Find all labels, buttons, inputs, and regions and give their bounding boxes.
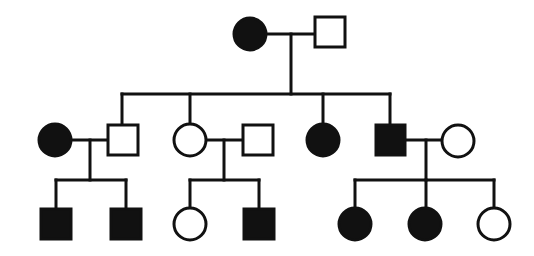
sibship-generation-3 bbox=[56, 180, 494, 209]
female-affected-II-3 bbox=[307, 124, 339, 156]
female-unaffected-III-3 bbox=[174, 208, 206, 240]
female-affected-III-6 bbox=[409, 208, 441, 240]
generation-2 bbox=[39, 124, 474, 180]
female-affected-spouse-1 bbox=[39, 124, 71, 156]
sibship-generation-2 bbox=[122, 94, 390, 125]
generation-3 bbox=[41, 208, 510, 240]
female-affected-I-1 bbox=[234, 18, 266, 50]
male-affected-III-2 bbox=[111, 209, 141, 239]
male-unaffected-I-2 bbox=[315, 17, 345, 47]
male-unaffected-spouse-2 bbox=[243, 125, 273, 155]
male-affected-II-4 bbox=[376, 125, 405, 155]
generation-1 bbox=[234, 17, 345, 94]
female-affected-III-5 bbox=[339, 208, 371, 240]
female-unaffected-spouse-3 bbox=[442, 125, 474, 157]
male-unaffected-II-1 bbox=[108, 125, 138, 155]
male-affected-III-4 bbox=[244, 209, 274, 239]
female-unaffected-II-2 bbox=[174, 124, 206, 156]
pedigree-chart bbox=[0, 0, 534, 256]
male-affected-III-1 bbox=[41, 209, 71, 239]
female-unaffected-III-7 bbox=[478, 208, 510, 240]
